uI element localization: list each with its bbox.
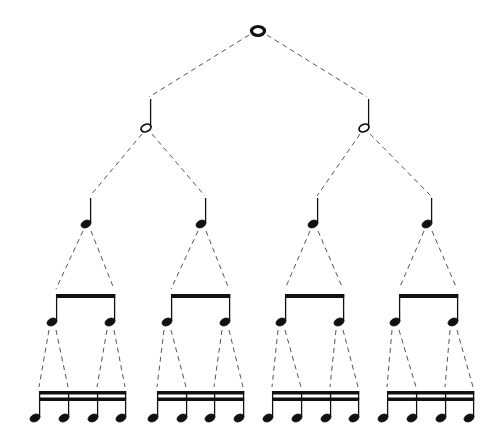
sixteenth-beam-upper (387, 391, 474, 395)
whole-note-icon (252, 27, 265, 36)
connector-line (343, 330, 358, 387)
sixteenth-beam-lower (272, 398, 359, 402)
eighth-beam (56, 294, 115, 298)
connector-line (285, 330, 301, 387)
note-value-tree: Note value subdivision tree (0, 0, 498, 447)
connector-line (370, 134, 431, 196)
sixteenth-beam-upper (157, 391, 244, 395)
connector-line (330, 330, 336, 387)
sixteenth-beam-lower (387, 398, 474, 402)
connector-line (56, 330, 68, 387)
connector-line (432, 231, 457, 289)
eighth-beam (171, 294, 230, 298)
connector-line (285, 231, 310, 289)
connector-line (149, 35, 249, 97)
connector-line (39, 330, 49, 387)
connector-line (445, 330, 450, 387)
half-note-icon (140, 123, 152, 134)
sixteenth-beam-upper (272, 391, 359, 395)
connector-line (157, 330, 164, 387)
connector-line (267, 35, 367, 97)
eighth-beam (399, 294, 458, 298)
connector-line (56, 231, 83, 289)
half-note-icon (358, 123, 370, 134)
connector-line (387, 330, 392, 387)
connector-line (457, 330, 473, 387)
connector-line (229, 330, 243, 387)
eighth-beam (285, 294, 344, 298)
connector-line (91, 231, 114, 289)
connector-line (90, 134, 142, 196)
connector-line (317, 134, 360, 196)
connector-line (171, 231, 198, 289)
connector-line (399, 330, 416, 387)
connector-line (206, 231, 229, 289)
connector-line (272, 330, 278, 387)
connector-line (318, 231, 343, 289)
connector-line (152, 134, 205, 196)
tree-canvas (0, 0, 498, 447)
sixteenth-beam-upper (39, 391, 126, 395)
connector-line (214, 330, 222, 387)
sixteenth-beam-lower (157, 398, 244, 402)
connector-line (97, 330, 107, 387)
sixteenth-beam-lower (39, 398, 126, 402)
connector-line (399, 231, 424, 289)
connector-line (114, 330, 125, 387)
connector-line (171, 330, 186, 387)
